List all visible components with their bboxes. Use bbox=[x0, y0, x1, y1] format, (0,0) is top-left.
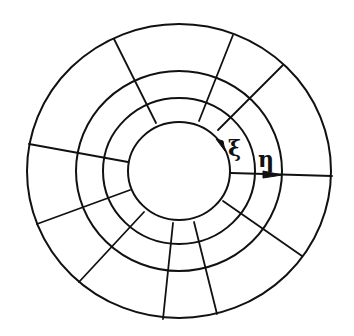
xi-label: ξ bbox=[228, 137, 241, 159]
xi-arrowhead-icon bbox=[216, 139, 225, 151]
eta-label: η bbox=[258, 148, 274, 170]
spoke-line bbox=[37, 190, 130, 224]
annular-mesh-diagram bbox=[0, 0, 354, 336]
outer-circle bbox=[27, 24, 331, 318]
spoke-line bbox=[223, 201, 302, 256]
rings bbox=[27, 24, 331, 318]
ring-3-circle bbox=[103, 98, 255, 244]
inner-circle bbox=[128, 122, 230, 220]
eta-arrowhead-icon bbox=[263, 171, 282, 178]
spoke-line bbox=[79, 212, 144, 282]
ring-2-circle bbox=[76, 71, 282, 271]
spoke-line bbox=[218, 65, 283, 130]
